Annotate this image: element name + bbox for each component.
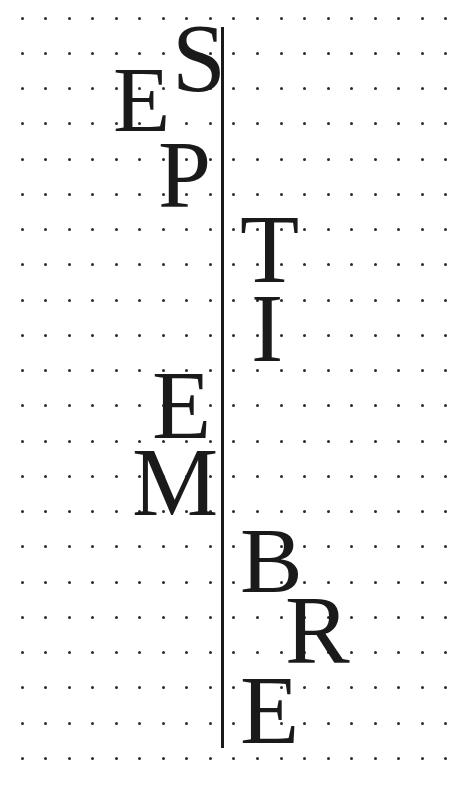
grid-dot (232, 52, 235, 55)
grid-dot (115, 651, 118, 654)
grid-dot (327, 510, 330, 513)
grid-dot (138, 228, 141, 231)
grid-dot (44, 475, 47, 478)
grid-dot (21, 228, 24, 231)
grid-dot (421, 510, 424, 513)
grid-dot (232, 722, 235, 725)
grid-dot (303, 686, 306, 689)
grid-dot (44, 722, 47, 725)
grid-dot (350, 757, 353, 760)
grid-dot (303, 299, 306, 302)
grid-dot (209, 334, 212, 337)
grid-dot (397, 545, 400, 548)
grid-dot (185, 334, 188, 337)
grid-dot (374, 228, 377, 231)
grid-dot (350, 52, 353, 55)
grid-dot (138, 299, 141, 302)
grid-dot (185, 581, 188, 584)
grid-dot (350, 158, 353, 161)
grid-dot (91, 616, 94, 619)
grid-dot (280, 651, 283, 654)
grid-dot (397, 616, 400, 619)
grid-dot (421, 193, 424, 196)
grid-dot (44, 87, 47, 90)
grid-dot (162, 651, 165, 654)
grid-dot (68, 52, 71, 55)
grid-dot (303, 122, 306, 125)
grid-dot (374, 17, 377, 20)
grid-dot (185, 545, 188, 548)
grid-dot (209, 757, 212, 760)
grid-dot (68, 616, 71, 619)
grid-dot (21, 369, 24, 372)
grid-dot (303, 193, 306, 196)
grid-dot (232, 369, 235, 372)
grid-dot (421, 52, 424, 55)
grid-dot (421, 263, 424, 266)
grid-dot (91, 369, 94, 372)
grid-dot (138, 545, 141, 548)
grid-dot (68, 757, 71, 760)
grid-dot (185, 651, 188, 654)
grid-dot (21, 404, 24, 407)
grid-dot (350, 122, 353, 125)
grid-dot (68, 193, 71, 196)
grid-dot (280, 616, 283, 619)
grid-dot (91, 581, 94, 584)
grid-dot (185, 686, 188, 689)
grid-dot (444, 581, 447, 584)
grid-dot (444, 545, 447, 548)
grid-dot (68, 581, 71, 584)
grid-dot (303, 87, 306, 90)
grid-dot (91, 686, 94, 689)
grid-dot (115, 757, 118, 760)
grid-dot (350, 299, 353, 302)
grid-dot (256, 17, 259, 20)
grid-dot (209, 299, 212, 302)
grid-dot (185, 228, 188, 231)
grid-dot (21, 440, 24, 443)
grid-dot (44, 440, 47, 443)
grid-dot (21, 757, 24, 760)
grid-dot (209, 722, 212, 725)
grid-dot (397, 52, 400, 55)
grid-dot (138, 757, 141, 760)
grid-dot (256, 404, 259, 407)
grid-dot (444, 299, 447, 302)
grid-dot (444, 17, 447, 20)
grid-dot (303, 722, 306, 725)
grid-dot (21, 545, 24, 548)
grid-dot (44, 686, 47, 689)
grid-dot (256, 651, 259, 654)
grid-dot (115, 158, 118, 161)
grid-dot (374, 299, 377, 302)
grid-dot (327, 475, 330, 478)
grid-dot (91, 404, 94, 407)
grid-dot (444, 228, 447, 231)
grid-dot (115, 686, 118, 689)
grid-dot (444, 757, 447, 760)
grid-dot (374, 581, 377, 584)
grid-dot (232, 193, 235, 196)
grid-dot (327, 757, 330, 760)
grid-dot (350, 475, 353, 478)
grid-dot (44, 17, 47, 20)
grid-dot (397, 475, 400, 478)
grid-dot (421, 369, 424, 372)
grid-dot (91, 87, 94, 90)
grid-dot (421, 440, 424, 443)
grid-dot (209, 651, 212, 654)
grid-dot (421, 686, 424, 689)
grid-dot (397, 17, 400, 20)
grid-dot (68, 158, 71, 161)
letter-e: E (240, 663, 299, 760)
grid-dot (327, 52, 330, 55)
vertical-rule (221, 27, 224, 748)
grid-dot (374, 193, 377, 196)
grid-dot (256, 87, 259, 90)
grid-dot (350, 228, 353, 231)
grid-dot (44, 334, 47, 337)
grid-dot (303, 510, 306, 513)
grid-dot (374, 158, 377, 161)
grid-dot (303, 404, 306, 407)
